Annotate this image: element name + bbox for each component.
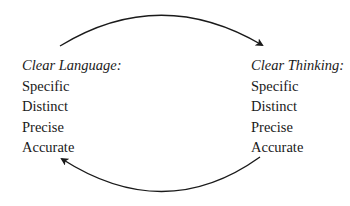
bottom-arrow xyxy=(62,157,260,192)
clear-language-list: Clear Language: Specific Distinct Precis… xyxy=(22,55,121,158)
list-item: Precise xyxy=(251,117,344,138)
top-arrow xyxy=(60,15,262,46)
list-item: Specific xyxy=(251,76,344,97)
list-item: Accurate xyxy=(251,137,344,158)
list-item: Precise xyxy=(22,117,121,138)
list-item: Specific xyxy=(22,76,121,97)
list-item: Accurate xyxy=(22,137,121,158)
list-item: Distinct xyxy=(22,96,121,117)
clear-thinking-list: Clear Thinking: Specific Distinct Precis… xyxy=(251,55,344,158)
clear-thinking-heading: Clear Thinking: xyxy=(251,55,344,76)
list-item: Distinct xyxy=(251,96,344,117)
clear-language-heading: Clear Language: xyxy=(22,55,121,76)
